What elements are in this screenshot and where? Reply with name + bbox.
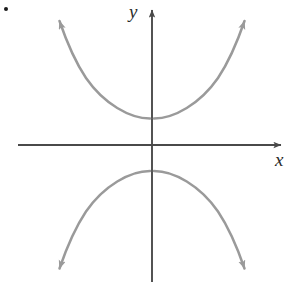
x-axis-label: x xyxy=(275,150,283,169)
graph-canvas xyxy=(0,0,294,289)
hyperbola-upper-branch-left xyxy=(60,21,151,119)
y-axis-label: y xyxy=(129,2,137,21)
hyperbola-lower-branch-left xyxy=(60,171,151,269)
hyperbola-figure: y x xyxy=(0,0,294,289)
hyperbola-upper-branch-right xyxy=(154,21,245,119)
hyperbola-lower-branch-right xyxy=(154,171,245,269)
